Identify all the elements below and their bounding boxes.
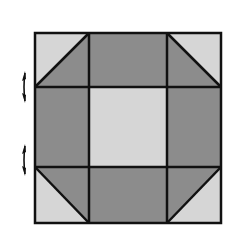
cell-fill bbox=[89, 33, 167, 87]
quilt-cell-r1c0 bbox=[35, 87, 89, 167]
seam-arrows bbox=[22, 71, 26, 176]
quilt-cell-r2c0 bbox=[35, 167, 89, 223]
quilt-cell-r2c2 bbox=[167, 167, 221, 223]
cell-fill bbox=[89, 167, 167, 223]
cell-fill bbox=[89, 87, 167, 167]
quilt-block-diagram bbox=[0, 0, 233, 237]
quilt-cell-r1c2 bbox=[167, 87, 221, 167]
quilt-cell-r1c1 bbox=[89, 87, 167, 167]
seam-arrow-lower-icon bbox=[22, 144, 26, 176]
quilt-cells bbox=[35, 33, 221, 223]
quilt-cell-r2c1 bbox=[89, 167, 167, 223]
cell-fill bbox=[35, 87, 89, 167]
cell-fill bbox=[167, 87, 221, 167]
quilt-cell-r0c1 bbox=[89, 33, 167, 87]
seam-arrow-upper-icon bbox=[22, 71, 26, 103]
quilt-cell-r0c0 bbox=[35, 33, 89, 87]
quilt-cell-r0c2 bbox=[167, 33, 221, 87]
